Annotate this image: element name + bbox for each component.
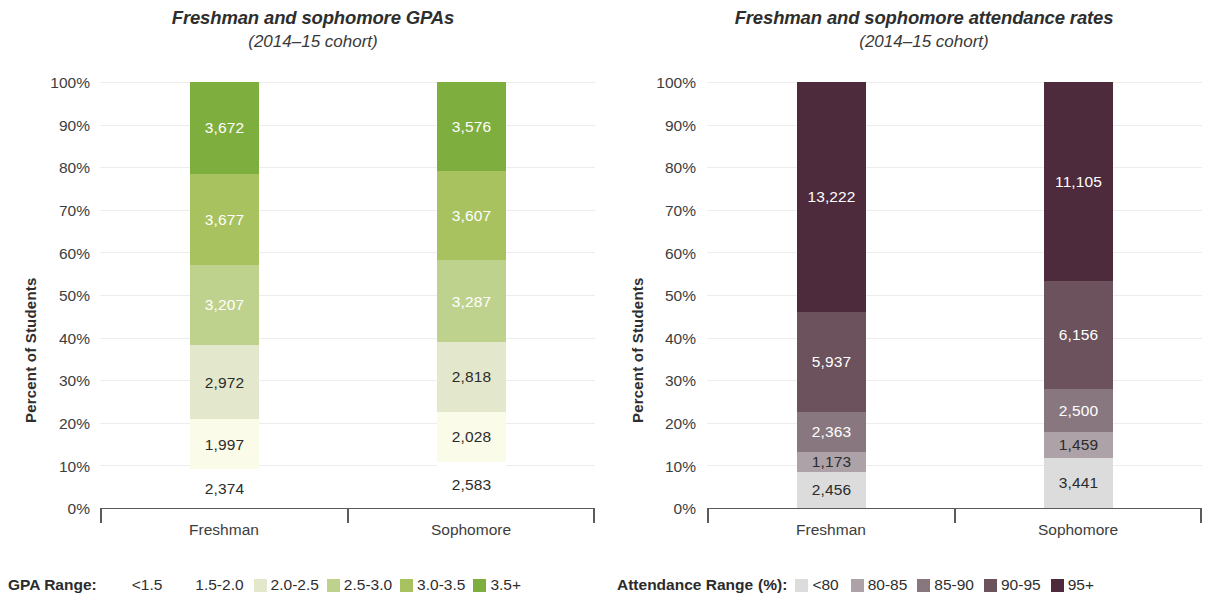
attendance-legend-title: Attendance Range	[617, 576, 753, 594]
attendance-segment-under80-freshman[interactable]: 2,456	[797, 472, 866, 508]
gridline	[100, 82, 595, 83]
gpa-ytick-50: 50%	[30, 288, 90, 304]
attendance-segment-90-95-sophomore[interactable]: 6,156	[1044, 281, 1113, 389]
att-ytick-0: 0%	[636, 501, 696, 517]
legend-swatch-icon	[1051, 579, 1064, 592]
gridline	[707, 252, 1202, 253]
gpa-ytick-0: 0%	[30, 501, 90, 517]
gpa-chart-subtitle: (2014–15 cohort)	[0, 32, 614, 52]
attendance-legend-item-80-85[interactable]: 80-85	[851, 576, 908, 594]
attendance-legend: Attendance Range (%): <80 80-85 85-90 90…	[617, 576, 1094, 594]
att-ytick-30: 30%	[636, 373, 696, 389]
attendance-segment-85-90-freshman[interactable]: 2,363	[797, 412, 866, 452]
gpa-segment-3.5plus-freshman[interactable]: 3,672	[190, 82, 259, 174]
gpa-ytick-90: 90%	[30, 118, 90, 134]
gpa-legend-item-2.5-3.0[interactable]: 2.5-3.0	[327, 576, 392, 594]
att-ytick-10: 10%	[636, 459, 696, 475]
attendance-legend-item-under80[interactable]: <80	[795, 576, 838, 594]
gpa-ytick-60: 60%	[30, 246, 90, 262]
attendance-segment-90-95-freshman[interactable]: 5,937	[797, 312, 866, 412]
gridline	[100, 338, 595, 339]
att-ytick-60: 60%	[636, 246, 696, 262]
gpa-bar-sophomore[interactable]: 3,576 3,607 3,287 2,818 2,028 2,583	[437, 82, 506, 508]
legend-swatch-icon	[795, 579, 808, 592]
gpa-chart-panel: Freshman and sophomore GPAs (2014–15 coh…	[0, 0, 614, 602]
gpa-segment-2.5-3.0-sophomore[interactable]: 3,287	[437, 260, 506, 342]
gpa-bar-freshman[interactable]: 3,672 3,677 3,207 2,972 1,997 2,374	[190, 82, 259, 508]
gpa-segment-2.0-2.5-freshman[interactable]: 2,972	[190, 345, 259, 419]
gridline	[100, 465, 595, 466]
attendance-segment-80-85-sophomore[interactable]: 1,459	[1044, 432, 1113, 458]
gridline	[707, 82, 1202, 83]
legend-swatch-icon	[917, 579, 930, 592]
gpa-segment-3.0-3.5-freshman[interactable]: 3,677	[190, 174, 259, 266]
legend-swatch-icon	[984, 579, 997, 592]
attendance-legend-item-85-90[interactable]: 85-90	[917, 576, 974, 594]
chart-page: Freshman and sophomore GPAs (2014–15 coh…	[0, 0, 1228, 602]
legend-swatch-icon	[473, 579, 486, 592]
att-ytick-20: 20%	[636, 416, 696, 432]
gpa-legend: GPA Range: <1.5 1.5-2.0 2.0-2.5 2.5-3.0	[8, 576, 521, 594]
legend-swatch-icon	[254, 579, 267, 592]
gpa-legend-item-2.0-2.5[interactable]: 2.0-2.5	[254, 576, 319, 594]
gpa-segment-2.5-3.0-freshman[interactable]: 3,207	[190, 265, 259, 345]
gpa-chart-title: Freshman and sophomore GPAs	[0, 7, 614, 29]
gridline	[707, 465, 1202, 466]
attendance-bar-sophomore[interactable]: 11,105 6,156 2,500 1,459 3,441	[1044, 82, 1113, 508]
att-ytick-90: 90%	[636, 118, 696, 134]
attendance-segment-80-85-freshman[interactable]: 1,173	[797, 452, 866, 472]
legend-swatch-icon	[400, 579, 413, 592]
gpa-segment-under1.5-freshman[interactable]: 2,374	[190, 469, 259, 508]
gridline	[707, 125, 1202, 126]
attendance-bar-freshman[interactable]: 13,222 5,937 2,363 1,173 2,456	[797, 82, 866, 508]
att-ytick-70: 70%	[636, 203, 696, 219]
gpa-segment-1.5-2.0-sophomore[interactable]: 2,028	[437, 412, 506, 462]
gpa-plot-area: 3,672 3,677 3,207 2,972 1,997 2,374	[100, 82, 595, 508]
gridline	[707, 295, 1202, 296]
attendance-legend-item-95plus[interactable]: 95+	[1051, 576, 1094, 594]
attendance-chart-subtitle: (2014–15 cohort)	[614, 32, 1228, 52]
gpa-ytick-10: 10%	[30, 459, 90, 475]
gridline	[707, 167, 1202, 168]
attendance-segment-under80-sophomore[interactable]: 3,441	[1044, 458, 1113, 509]
legend-swatch-icon	[178, 579, 191, 592]
legend-swatch-icon	[851, 579, 864, 592]
gridline	[100, 167, 595, 168]
att-ytick-100: 100%	[636, 75, 696, 91]
attendance-legend-title-suffix: (%):	[758, 576, 787, 594]
attendance-legend-item-90-95[interactable]: 90-95	[984, 576, 1041, 594]
gridline	[100, 125, 595, 126]
gridline	[707, 210, 1202, 211]
gpa-ytick-100: 100%	[30, 75, 90, 91]
attendance-chart-panel: Freshman and sophomore attendance rates …	[614, 0, 1228, 602]
gridline	[707, 338, 1202, 339]
gpa-segment-under1.5-sophomore[interactable]: 2,583	[437, 462, 506, 508]
gpa-legend-item-3.0-3.5[interactable]: 3.0-3.5	[400, 576, 465, 594]
attendance-chart-title: Freshman and sophomore attendance rates	[614, 7, 1228, 29]
attendance-segment-85-90-sophomore[interactable]: 2,500	[1044, 389, 1113, 433]
gpa-ytick-80: 80%	[30, 160, 90, 176]
legend-swatch-icon	[115, 579, 128, 592]
gpa-xlabel-sophomore: Sophomore	[347, 521, 595, 539]
attendance-segment-95plus-sophomore[interactable]: 11,105	[1044, 82, 1113, 281]
gpa-segment-3.0-3.5-sophomore[interactable]: 3,607	[437, 171, 506, 260]
gpa-ytick-30: 30%	[30, 373, 90, 389]
gridline	[100, 423, 595, 424]
gpa-legend-item-1.5-2.0[interactable]: 1.5-2.0	[178, 576, 243, 594]
legend-swatch-icon	[327, 579, 340, 592]
gpa-segment-2.0-2.5-sophomore[interactable]: 2,818	[437, 342, 506, 412]
att-ytick-40: 40%	[636, 331, 696, 347]
gpa-ytick-40: 40%	[30, 331, 90, 347]
gpa-legend-item-3.5plus[interactable]: 3.5+	[473, 576, 521, 594]
gpa-segment-1.5-2.0-freshman[interactable]: 1,997	[190, 419, 259, 469]
gridline	[707, 423, 1202, 424]
gpa-segment-3.5plus-sophomore[interactable]: 3,576	[437, 82, 506, 171]
gpa-ytick-70: 70%	[30, 203, 90, 219]
gpa-legend-item-under1.5[interactable]: <1.5	[115, 576, 163, 594]
gpa-legend-title: GPA Range:	[8, 576, 97, 594]
attendance-xlabel-sophomore: Sophomore	[954, 521, 1202, 539]
attendance-xlabel-freshman: Freshman	[707, 521, 955, 539]
gpa-ytick-20: 20%	[30, 416, 90, 432]
attendance-segment-95plus-freshman[interactable]: 13,222	[797, 82, 866, 312]
gridline	[100, 252, 595, 253]
